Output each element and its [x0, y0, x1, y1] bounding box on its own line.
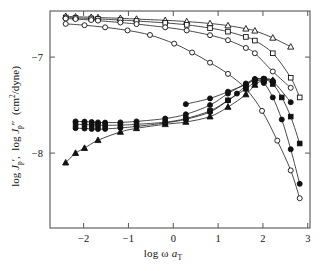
compliance-chart: −2−10123−7−8: [0, 0, 326, 271]
y-axis-label: log Jp′, log Jp″ (cm2/dyne): [8, 26, 25, 226]
svg-text:−1: −1: [123, 233, 134, 244]
svg-text:2: 2: [260, 233, 265, 244]
svg-text:1: 1: [215, 233, 220, 244]
svg-text:3: 3: [305, 233, 310, 244]
svg-text:−2: −2: [78, 233, 89, 244]
svg-text:−8: −8: [32, 148, 43, 159]
svg-text:0: 0: [171, 233, 176, 244]
svg-text:−7: −7: [32, 52, 43, 63]
x-axis-label: log ω aT: [0, 247, 326, 262]
figure-root: −2−10123−7−8 log Jp′, log Jp″ (cm2/dyne)…: [0, 0, 326, 271]
chart-background: [0, 0, 326, 271]
